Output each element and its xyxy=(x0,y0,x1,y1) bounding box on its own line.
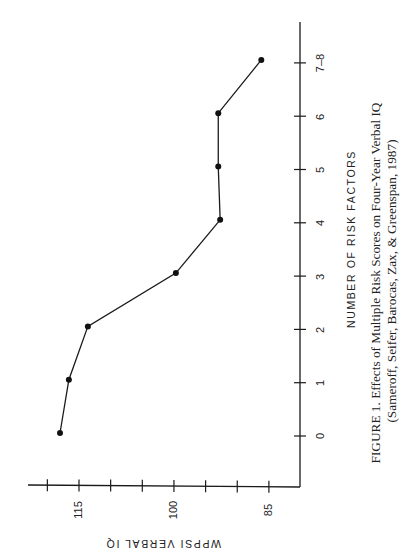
x-tick-label-2: 2 xyxy=(314,327,326,333)
y-tick-label-100: 100 xyxy=(167,501,179,519)
x-axis: 0 1 2 3 4 5 6 7–8 xyxy=(294,22,326,487)
x-axis-title: NUMBER OF RISK FACTORS xyxy=(345,150,357,328)
figure-caption-line1: FIGURE 1. Effects of Multiple Risk Score… xyxy=(368,102,383,463)
y-axis-line xyxy=(28,485,300,487)
data-point xyxy=(57,430,63,436)
data-series xyxy=(57,57,264,436)
x-tick-label-7-8: 7–8 xyxy=(314,54,326,72)
y-axis-tick-labels: 115 100 85 xyxy=(72,501,274,519)
series-points xyxy=(57,57,264,436)
x-axis-tick-labels: 0 1 2 3 4 5 6 7–8 xyxy=(314,54,326,439)
data-point xyxy=(66,377,72,383)
x-tick-label-0: 0 xyxy=(314,433,326,439)
chart: 0 1 2 3 4 5 6 7–8 115 100 85 WPPSI VERBA… xyxy=(0,0,418,555)
data-point xyxy=(258,57,264,63)
data-point xyxy=(173,270,179,276)
y-axis-title: WPPSI VERBAL IQ xyxy=(105,538,221,550)
y-tick-label-115: 115 xyxy=(72,501,84,519)
series-line xyxy=(60,60,261,433)
x-tick-label-6: 6 xyxy=(314,114,326,120)
figure-caption-line2: (Sameroff, Seifer, Barocas, Zax, & Green… xyxy=(384,139,399,422)
x-tick-label-1: 1 xyxy=(314,380,326,386)
x-tick-label-4: 4 xyxy=(314,220,326,226)
y-axis: 115 100 85 xyxy=(28,479,300,519)
data-point xyxy=(215,164,221,170)
data-point xyxy=(85,323,91,329)
x-tick-label-5: 5 xyxy=(314,167,326,173)
data-point xyxy=(217,217,223,223)
x-tick-label-3: 3 xyxy=(314,274,326,280)
data-point xyxy=(215,110,221,116)
y-tick-label-85: 85 xyxy=(262,504,274,516)
